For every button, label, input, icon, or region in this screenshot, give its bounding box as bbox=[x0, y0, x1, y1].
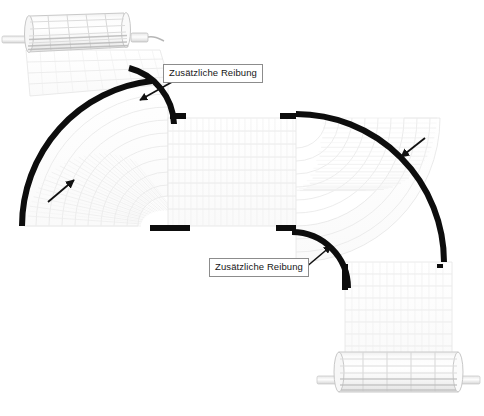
callout-label-top: Zusätzliche Reibung bbox=[163, 64, 263, 83]
callout-label-bottom: Zusätzliche Reibung bbox=[209, 258, 309, 277]
conveyor-diagram bbox=[0, 0, 484, 416]
top-roller-shaft-left bbox=[2, 36, 26, 43]
illustration-canvas: Zusätzliche Reibung Zusätzliche Reibung bbox=[0, 0, 484, 416]
belt-bottom-exit bbox=[345, 262, 452, 358]
conveyor-belt-surface bbox=[24, 50, 452, 358]
top-roller-cap-left bbox=[25, 16, 34, 53]
bottom-roller bbox=[317, 352, 480, 392]
bottom-roller-cap-left bbox=[334, 352, 344, 392]
top-roller-shaft-right bbox=[131, 33, 148, 42]
belt-left-curve bbox=[24, 82, 175, 226]
top-roller-cable bbox=[148, 37, 164, 41]
top-roller bbox=[2, 13, 164, 53]
bottom-roller-drum bbox=[339, 352, 458, 392]
bottom-roller-cap-right bbox=[453, 352, 463, 392]
